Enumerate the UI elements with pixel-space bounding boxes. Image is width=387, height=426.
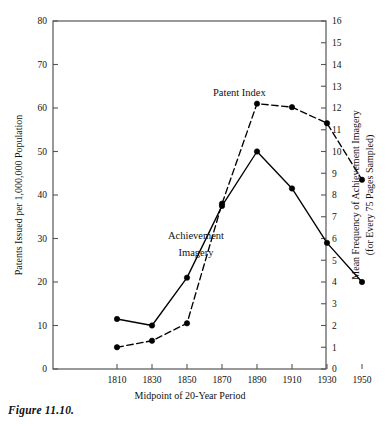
y2-tick-label: 1 xyxy=(332,343,337,353)
data-point-marker xyxy=(114,316,119,321)
y2-tick-label: 10 xyxy=(332,147,342,157)
data-point-marker xyxy=(254,149,259,154)
x-tick-label: 1890 xyxy=(248,375,267,385)
series-patent-index xyxy=(114,101,364,350)
x-tick-label: 1830 xyxy=(143,375,162,385)
data-point-marker xyxy=(324,121,329,126)
series-label-patent-index: Patent Index xyxy=(213,87,267,98)
y2-axis-title-line2: (for Every 75 Pages Sampled) xyxy=(364,135,376,256)
y-tick-label: 10 xyxy=(38,321,48,331)
x-tick-label: 1850 xyxy=(178,375,197,385)
y2-tick-label: 15 xyxy=(332,38,342,48)
y-tick-label: 30 xyxy=(38,234,48,244)
series-label-achievement-imagery-line1: Achievement xyxy=(168,230,224,241)
data-point-marker xyxy=(184,275,189,280)
y2-tick-label: 16 xyxy=(332,16,342,26)
data-point-marker xyxy=(254,101,259,106)
series-label-achievement-imagery-line2: Imagery xyxy=(179,247,215,258)
data-point-marker xyxy=(149,338,154,343)
x-tick-label: 1930 xyxy=(318,375,337,385)
data-point-marker xyxy=(149,323,154,328)
left-axis-ticks: 01020304050607080 xyxy=(38,16,59,374)
y2-tick-label: 7 xyxy=(332,212,337,222)
y2-tick-label: 5 xyxy=(332,256,337,266)
y-tick-label: 20 xyxy=(38,277,48,287)
x-tick-label: 1910 xyxy=(283,375,302,385)
y2-tick-label: 14 xyxy=(332,60,342,70)
data-point-marker xyxy=(289,186,294,191)
y2-tick-label: 4 xyxy=(332,277,337,287)
y-tick-label: 60 xyxy=(38,103,48,113)
data-point-marker xyxy=(114,345,119,350)
y2-tick-label: 12 xyxy=(332,103,342,113)
data-point-marker xyxy=(324,240,329,245)
y2-tick-label: 9 xyxy=(332,169,337,179)
x-axis-title: Midpoint of 20-Year Period xyxy=(135,390,246,401)
y2-tick-label: 6 xyxy=(332,234,337,244)
y-tick-label: 80 xyxy=(38,16,48,26)
y-tick-label: 0 xyxy=(42,364,47,374)
y-axis-title: Patents Issued per 1,000,000 Population xyxy=(13,115,24,276)
y2-tick-label: 2 xyxy=(332,321,337,331)
chart-canvas: 01020304050607080 0123456789101112131415… xyxy=(0,0,387,426)
x-tick-label: 1950 xyxy=(353,375,372,385)
series-line xyxy=(117,104,362,348)
y-tick-label: 70 xyxy=(38,60,48,70)
y2-tick-label: 3 xyxy=(332,299,337,309)
data-point-marker xyxy=(219,203,224,208)
y-tick-label: 50 xyxy=(38,147,48,157)
x-tick-label: 1810 xyxy=(108,375,127,385)
y2-tick-label: 8 xyxy=(332,190,337,200)
figure-container: 01020304050607080 0123456789101112131415… xyxy=(0,0,387,426)
series-achievement-imagery xyxy=(114,149,364,328)
y-tick-label: 40 xyxy=(38,190,48,200)
x-tick-label: 1870 xyxy=(213,375,232,385)
data-point-marker xyxy=(289,104,294,109)
y2-axis-title-line1: Mean Frequency of Achievement Imagery xyxy=(350,110,361,279)
figure-caption: Figure 11.10. xyxy=(8,404,74,416)
y2-tick-label: 0 xyxy=(332,364,337,374)
data-point-marker xyxy=(184,321,189,326)
y2-tick-label: 13 xyxy=(332,82,342,92)
right-axis-ticks: 012345678910111213141516 xyxy=(321,16,342,374)
